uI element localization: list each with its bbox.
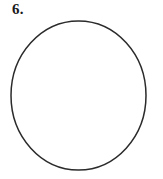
circle-outline-icon [11,21,146,170]
circle-drawing [0,0,163,179]
geometry-problem-figure: 6. [0,0,163,179]
